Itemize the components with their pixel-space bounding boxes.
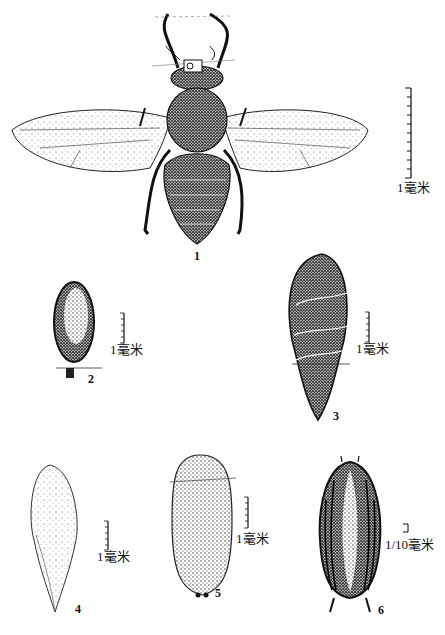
panel-number-3: 3	[333, 410, 339, 422]
panel-number-1: 1	[194, 250, 200, 262]
scale-label-6: 1/10毫米	[385, 538, 434, 551]
scale-bar-3	[365, 312, 369, 342]
scale-label-1: 1毫米	[397, 181, 430, 194]
panel-4-elongate-egg	[31, 465, 77, 612]
figure-caption	[150, 626, 300, 635]
scale-bar-4	[104, 521, 108, 550]
panel-1-adult-fly	[12, 14, 368, 244]
panel-2-egg	[54, 282, 102, 378]
scale-bar-5	[244, 497, 248, 528]
panel-number-6: 6	[378, 604, 384, 616]
scale-label-5: 1毫米	[236, 532, 269, 545]
scale-bar-6	[403, 524, 408, 532]
panel-6-larva	[320, 456, 381, 612]
panel-5-puparium	[170, 455, 236, 598]
panel-3-teardrop-body	[289, 254, 350, 420]
panel-number-4: 4	[75, 603, 81, 615]
scale-bar-1	[405, 88, 411, 178]
panel-number-2: 2	[88, 373, 94, 385]
scale-label-2: 1毫米	[110, 343, 143, 356]
plate-illustration	[0, 0, 445, 635]
scale-label-3: 1毫米	[356, 342, 389, 355]
scale-bar-2	[120, 313, 124, 343]
panel-number-5: 5	[215, 587, 221, 599]
figure-plate: 1毫米 1毫米 1毫米 1毫米 1毫米 1/10毫米 1 2 3 4 5 6	[0, 0, 445, 635]
scale-label-4: 1毫米	[97, 550, 130, 563]
